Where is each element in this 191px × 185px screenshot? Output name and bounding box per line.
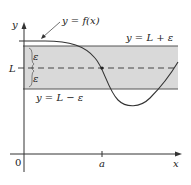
upper-line-label: y = L + ε bbox=[125, 32, 173, 43]
x-axis-arrow bbox=[175, 152, 182, 157]
curve-label: y = f(x) bbox=[61, 15, 100, 26]
curve-pointer bbox=[43, 22, 60, 37]
y-axis-label: y bbox=[11, 19, 18, 30]
epsilon-lower-label: ε bbox=[33, 73, 38, 84]
limit-diagram: y y = f(x) y = L + ε ε L ε y = L − ε 0 a… bbox=[0, 0, 191, 185]
x-axis-label: x bbox=[173, 158, 179, 169]
epsilon-upper-label: ε bbox=[33, 51, 38, 62]
L-label: L bbox=[8, 63, 16, 74]
a-label: a bbox=[99, 158, 105, 169]
y-axis-arrow bbox=[22, 22, 27, 29]
origin-label: 0 bbox=[15, 157, 21, 168]
intersection-point bbox=[100, 66, 103, 69]
lower-line-label: y = L − ε bbox=[35, 92, 83, 103]
